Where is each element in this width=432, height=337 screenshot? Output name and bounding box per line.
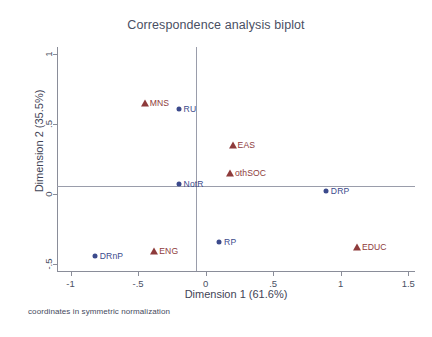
y-tick-mark [53, 54, 57, 55]
x-tick-mark [206, 272, 207, 276]
data-point-label: EDUC [362, 242, 387, 252]
x-axis-title: Dimension 1 (61.6%) [57, 288, 415, 300]
circle-marker-icon [323, 189, 328, 194]
circle-marker-icon [217, 239, 222, 244]
y-tick-mark [53, 194, 57, 195]
triangle-marker-icon [150, 248, 158, 255]
x-tick-mark [71, 272, 72, 276]
data-point-label: othSOC [235, 168, 266, 178]
x-tick-mark [138, 272, 139, 276]
y-axis-title: Dimension 2 (35.5%) [33, 41, 45, 241]
data-point-label: DRP [331, 186, 349, 196]
plot-area: -1-.50.511.5 1.50-.5 MNSEASothSOCENGEDUC… [57, 47, 415, 272]
circle-marker-icon [176, 106, 181, 111]
x-tick-mark [408, 272, 409, 276]
circle-marker-icon [92, 253, 97, 258]
data-point-label: RU [184, 104, 197, 114]
data-point-label: ENG [159, 246, 178, 256]
y-tick-label: -.5 [43, 258, 54, 269]
zero-vertical-line [196, 47, 197, 271]
chart-footnote: coordinates in symmetric normalization [28, 307, 170, 316]
triangle-marker-icon [226, 170, 234, 177]
correspondence-analysis-biplot: Correspondence analysis biplot -1-.50.51… [0, 0, 432, 337]
chart-title: Correspondence analysis biplot [0, 18, 432, 32]
x-tick-mark [341, 272, 342, 276]
x-tick-mark [273, 272, 274, 276]
triangle-marker-icon [353, 244, 361, 251]
data-point-label: EAS [238, 140, 256, 150]
y-tick-mark [53, 124, 57, 125]
triangle-marker-icon [229, 142, 237, 149]
y-axis-spine [57, 47, 58, 272]
triangle-marker-icon [141, 100, 149, 107]
zero-horizontal-line [57, 186, 415, 187]
data-point-label: MNS [150, 98, 169, 108]
circle-marker-icon [176, 182, 181, 187]
data-point-label: NotR [184, 179, 204, 189]
y-tick-mark [53, 264, 57, 265]
data-point-label: RP [224, 237, 236, 247]
data-point-label: DRnP [100, 251, 123, 261]
x-axis-spine [57, 271, 415, 272]
